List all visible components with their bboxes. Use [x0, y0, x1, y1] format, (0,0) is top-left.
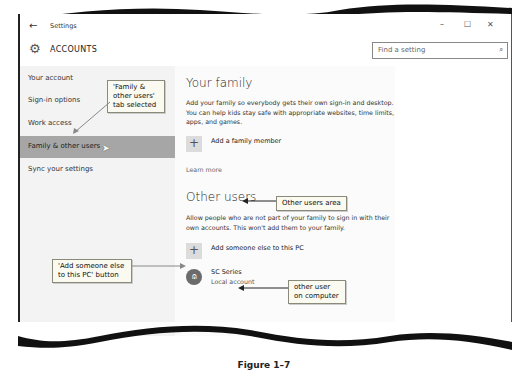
- back-arrow-icon[interactable]: ←: [29, 20, 37, 31]
- callout-arrow-other-user: [236, 283, 290, 293]
- figure-caption: Figure 1–7: [0, 360, 528, 370]
- callout-arrow-add-someone: [132, 261, 188, 271]
- add-someone-else-label[interactable]: Add someone else to this PC: [211, 244, 304, 252]
- accounts-header: ⚙ ACCOUNTS Find a setting ⌕: [20, 38, 511, 64]
- close-button[interactable]: ✕: [487, 20, 494, 29]
- search-input[interactable]: Find a setting ⌕: [372, 42, 508, 59]
- minimize-button[interactable]: –: [440, 20, 444, 29]
- search-placeholder: Find a setting: [378, 46, 425, 54]
- section-title: ACCOUNTS: [50, 45, 97, 54]
- callout-arrow-other-users: [240, 196, 280, 206]
- sidebar-item-sync-settings[interactable]: Sync your settings: [20, 159, 175, 181]
- learn-more-link[interactable]: Learn more: [186, 166, 222, 173]
- right-blank-area: [395, 66, 512, 336]
- add-family-member-button[interactable]: +: [186, 136, 202, 152]
- your-family-description: Add your family so everybody gets their …: [186, 98, 401, 127]
- user-name[interactable]: SC Series: [211, 268, 242, 276]
- your-family-heading: Your family: [186, 76, 252, 90]
- user-avatar-icon[interactable]: ⍝: [186, 269, 202, 285]
- title-bar: ← Settings – ☐ ✕: [20, 14, 511, 38]
- search-icon[interactable]: ⌕: [499, 45, 503, 55]
- add-someone-else-button[interactable]: +: [186, 243, 202, 259]
- callout-other-users-area: Other users area: [276, 196, 347, 211]
- callout-add-someone-button: 'Add someone else to this PC' button: [52, 259, 132, 283]
- gear-icon: ⚙: [29, 41, 41, 56]
- add-family-member-label[interactable]: Add a family member: [211, 137, 281, 145]
- callout-other-user: other user on computer: [288, 280, 346, 304]
- mouse-pointer-icon: ➤: [102, 143, 110, 153]
- maximize-button[interactable]: ☐: [464, 20, 471, 29]
- callout-arrow-tab: [60, 100, 120, 140]
- window-title: Settings: [50, 22, 77, 30]
- other-users-description: Allow people who are not part of your fa…: [186, 213, 401, 232]
- torn-edge-bottom: [0, 322, 528, 358]
- sidebar-item-label: Family & other users: [28, 142, 100, 150]
